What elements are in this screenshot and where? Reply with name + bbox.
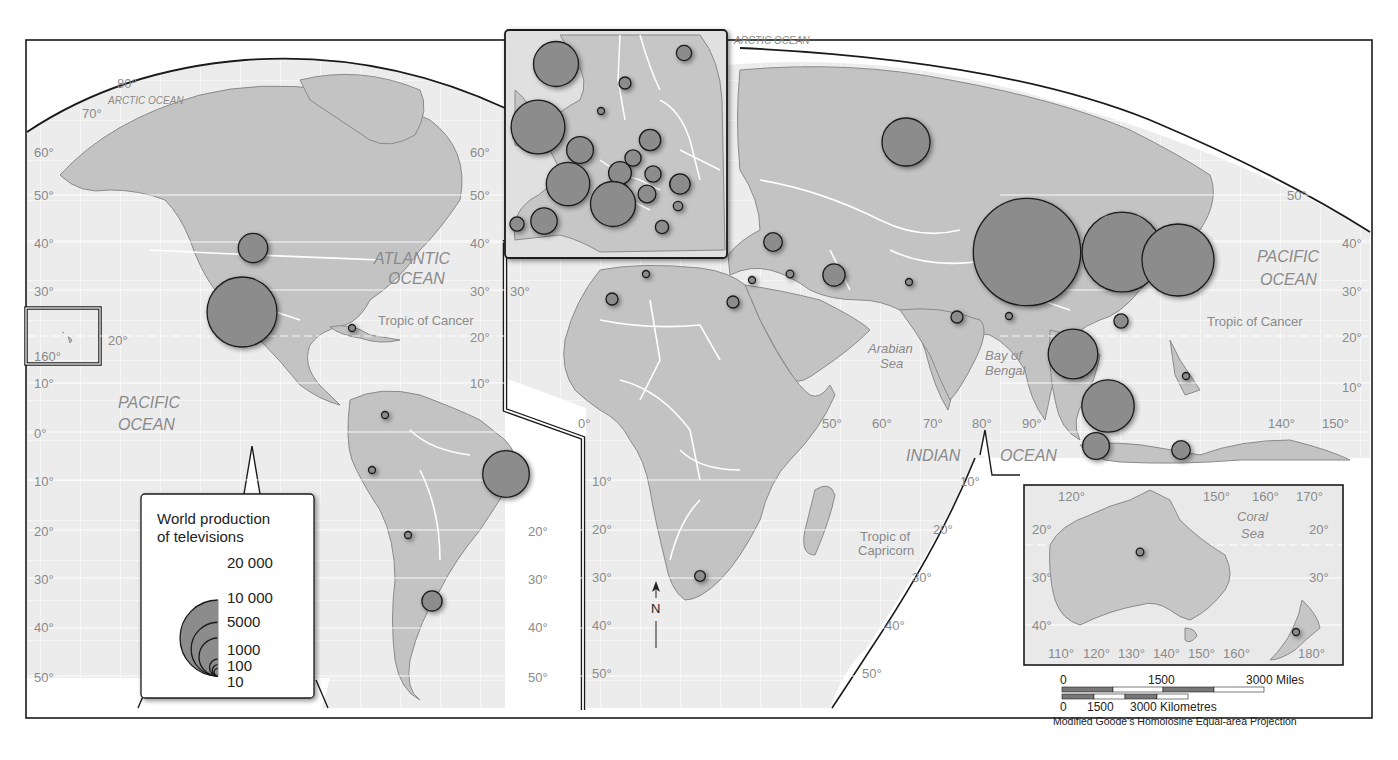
lon-label: 180° [1298, 646, 1325, 661]
legend-value: 5000 [227, 613, 260, 630]
lat-label: 30° [34, 284, 54, 299]
lat-label: 30° [34, 572, 54, 587]
pacific-ocean-label: PACIFIC [118, 394, 180, 411]
production-symbol-portugal [510, 217, 524, 231]
production-symbol-mexico [207, 277, 277, 347]
production-symbol-bulgaria [673, 201, 682, 210]
lat-label: 20° [1032, 522, 1052, 537]
lon-label: 60° [872, 416, 892, 431]
lon-label: 130° [1118, 646, 1145, 661]
lon-label: 70° [923, 416, 943, 431]
arabian-sea-label: Arabian [867, 341, 913, 356]
pacific-ocean-label: OCEAN [1260, 271, 1317, 288]
lon-label: 160° [1223, 646, 1250, 661]
lat-label: 10° [34, 474, 54, 489]
production-symbol-argentina [422, 591, 442, 611]
lat-label: 30° [510, 284, 530, 299]
production-symbol-india [951, 311, 963, 323]
production-symbol-ireland [534, 42, 579, 87]
arctic-ocean-label: ARCTIC OCEAN [107, 95, 184, 106]
lat-label: 30° [1032, 570, 1052, 585]
lat-label: 10° [960, 474, 980, 489]
production-symbol-turkey [764, 233, 783, 252]
production-symbol-philippines [1183, 373, 1190, 380]
atlantic-ocean-label: ATLANTIC [373, 250, 451, 267]
pacific-ocean-label: PACIFIC [1257, 248, 1319, 265]
lat-label: 20° [1342, 330, 1362, 345]
lat-label: 70° [82, 106, 102, 121]
lat-label: 50° [1287, 188, 1307, 203]
production-symbol-belgium [567, 137, 594, 164]
lon-label: 150° [1322, 416, 1349, 431]
bay-of-bengal-label: Bay of [985, 348, 1023, 363]
lat-label: 20° [1309, 522, 1329, 537]
lat-label: 80° [117, 76, 137, 91]
lat-label: 30° [470, 284, 490, 299]
production-symbol-east-indonesia [1172, 441, 1191, 460]
lon-label: 20° [108, 333, 128, 348]
indian-ocean-label: INDIAN [906, 447, 961, 464]
production-symbol-switzerland-austria [638, 185, 656, 203]
lat-label: 20° [528, 524, 548, 539]
legend-value: 20 000 [227, 554, 273, 571]
lat-label: 40° [592, 618, 612, 633]
lon-label: 160° [1252, 489, 1279, 504]
lon-label: 160° [34, 349, 61, 364]
lon-label: 170° [1296, 489, 1323, 504]
lon-label: 0° [578, 416, 590, 431]
production-symbol-taiwan-hong-kong [1114, 314, 1128, 328]
north-label: N [651, 601, 660, 616]
production-symbol-egypt [727, 296, 739, 308]
production-symbol-denmark [598, 108, 605, 115]
legend-title: of televisions [157, 528, 244, 545]
production-symbol-russia [882, 118, 930, 166]
lat-label: 10° [34, 376, 54, 391]
arctic-ocean-label: ARCTIC OCEAN [733, 35, 810, 46]
production-symbol-italy [591, 182, 636, 227]
production-symbol-australia [1136, 548, 1144, 556]
lat-label: 10° [470, 376, 490, 391]
projection-label: Modified Goode's Homolosine Equal-area P… [1053, 715, 1297, 727]
scale-label-km: 1500 [1087, 700, 1114, 714]
lat-label: 40° [1032, 618, 1052, 633]
lon-label: 50° [822, 416, 842, 431]
lat-label: 20° [592, 522, 612, 537]
atlantic-ocean-label: OCEAN [388, 270, 445, 287]
lat-label: 30° [1342, 284, 1362, 299]
production-symbol-syria-iraq [786, 270, 794, 278]
lat-label: 10° [592, 474, 612, 489]
arabian-sea-label: Sea [880, 356, 903, 371]
tropic-of-capricorn-label: Capricorn [858, 543, 914, 558]
scale-label-miles: 3000 Miles [1246, 673, 1304, 687]
lat-label: 60° [34, 145, 54, 160]
lon-label: 150° [1188, 646, 1215, 661]
production-symbol-malaysia [1082, 380, 1134, 432]
production-symbol-tunisia [643, 271, 650, 278]
lat-label: 40° [528, 620, 548, 635]
production-symbol-pakistan [906, 279, 913, 286]
production-symbol-iran [823, 264, 845, 286]
production-symbol-bangladesh [1006, 313, 1013, 320]
lat-label: 20° [34, 524, 54, 539]
lon-label: 80° [972, 416, 992, 431]
lat-label: 30° [592, 570, 612, 585]
production-symbol-poland [639, 129, 660, 150]
lon-label: 140° [1153, 646, 1180, 661]
production-symbol-cuba [349, 325, 356, 332]
lat-label: 50° [34, 188, 54, 203]
indian-ocean-label: OCEAN [1000, 447, 1057, 464]
scale-label-km: 3000 Kilometres [1130, 700, 1217, 714]
lat-label: 40° [34, 236, 54, 251]
australia-inset: 120° 150° 160° 170° Coral Sea 20° 30° 40… [1024, 485, 1343, 665]
lon-label: 110° [1048, 646, 1074, 661]
production-symbol-brazil [483, 451, 530, 498]
lat-label: 40° [1342, 236, 1362, 251]
lat-label: 20° [933, 522, 953, 537]
production-symbol-indonesia [1083, 433, 1110, 460]
production-symbol-japan [1142, 224, 1214, 296]
production-symbol-peru [369, 467, 376, 474]
lat-label: 50° [528, 670, 548, 685]
production-symbol-new-zealand [1293, 629, 1300, 636]
production-symbol-united-states [238, 233, 267, 262]
lon-label: 120° [1083, 646, 1110, 661]
